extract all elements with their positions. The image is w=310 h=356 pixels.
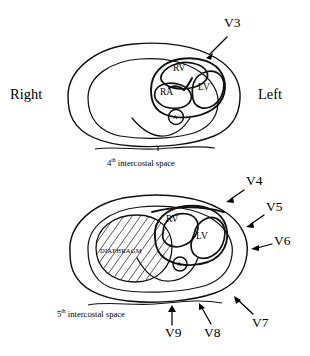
upper-aorta-label: A: [173, 114, 177, 120]
lower-caption: 5th intercostal space: [57, 310, 125, 319]
lead-arrow-v7: [234, 296, 253, 314]
orientation-label-right: Right: [10, 87, 42, 102]
lead-label-v6: V6: [274, 234, 291, 248]
upper-caption: 4th intercostal space: [107, 159, 175, 168]
upper-inner-cavity-outline: [88, 59, 218, 139]
lead-arrow-v5: [246, 215, 264, 228]
lead-arrow-v6: [251, 244, 272, 251]
lead-label-v9: V9: [165, 326, 182, 340]
upper-cavity-lobe-divider: [132, 118, 190, 136]
upper-caption-suffix: intercostal space: [116, 158, 175, 168]
upper-chamber-label-ra: RA: [160, 88, 173, 98]
figure-root: Right Left V3 RV RA LV A 4th intercostal…: [0, 0, 310, 356]
lead-label-v5: V5: [266, 200, 283, 214]
lead-label-v3: V3: [224, 16, 241, 30]
lead-label-v4: V4: [246, 174, 263, 188]
lower-cavity-lobe-divider: [137, 258, 198, 281]
lower-chamber-label-lv: LV: [196, 232, 208, 242]
diaphragm-label: DIAPHRAGM: [100, 248, 142, 255]
upper-cross-section: [68, 37, 240, 151]
orientation-label-left: Left: [258, 87, 282, 102]
lead-label-v7: V7: [252, 316, 269, 330]
anatomy-diagram: [0, 0, 310, 356]
lead-arrow-v4: [226, 190, 244, 203]
lower-cross-section: [66, 190, 272, 325]
lead-label-v8: V8: [204, 326, 221, 340]
lower-aorta-label: A: [177, 261, 181, 267]
lead-arrow-v8: [199, 303, 211, 324]
upper-chamber-label-lv: LV: [198, 83, 210, 93]
lead-arrow-v9: [168, 305, 176, 325]
lower-caption-suffix: intercostal space: [66, 309, 125, 319]
lead-arrow-v3: [206, 37, 227, 60]
upper-chamber-label-rv: RV: [173, 64, 185, 74]
lower-chamber-label-rv: RV: [166, 215, 178, 225]
